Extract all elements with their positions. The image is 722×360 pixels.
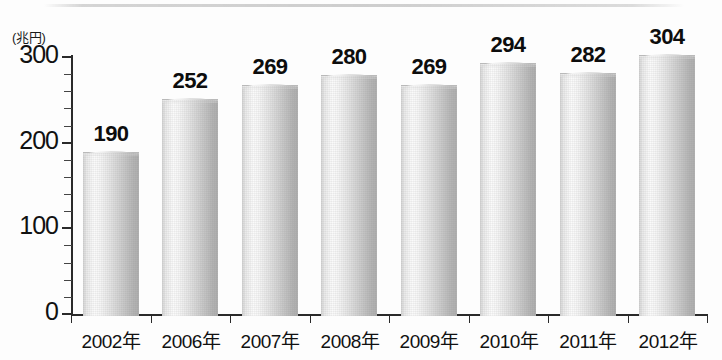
bar-value-label: 294 [480, 32, 536, 58]
x-axis-category-label: 2002年 [71, 326, 151, 353]
bar[interactable] [162, 99, 218, 316]
scan-artifact-line [44, 4, 684, 7]
bar-top-cap [401, 84, 457, 89]
bar-group[interactable]: 252 [162, 42, 218, 316]
bar[interactable] [242, 85, 298, 316]
bar[interactable] [401, 85, 457, 316]
bar-group[interactable]: 304 [639, 42, 695, 316]
bar[interactable] [480, 63, 536, 316]
bar-group[interactable]: 269 [242, 42, 298, 316]
bar-group[interactable]: 282 [560, 42, 616, 316]
bar[interactable] [321, 75, 377, 316]
bar-group[interactable]: 294 [480, 42, 536, 316]
bar-group[interactable]: 280 [321, 42, 377, 316]
plot-area: 190252269280269294282304 [71, 40, 707, 316]
bar-top-cap [560, 72, 616, 77]
x-axis-category-label: 2008年 [310, 326, 390, 353]
x-axis-category-label: 2007年 [230, 326, 310, 353]
bar-group[interactable]: 269 [401, 42, 457, 316]
bar-top-cap [480, 62, 536, 67]
bar-top-cap [321, 74, 377, 79]
bar[interactable] [560, 73, 616, 316]
y-tick-label: 0 [0, 297, 58, 326]
y-tick-label: 100 [0, 211, 58, 240]
y-tick-label: 300 [0, 40, 58, 69]
y-tick-label: 200 [0, 126, 58, 155]
bar-value-label: 252 [162, 68, 218, 94]
bar-top-cap [83, 151, 139, 156]
bar-top-cap [639, 54, 695, 59]
x-axis-category-label: 2006年 [151, 326, 231, 353]
bar-group[interactable]: 190 [83, 42, 139, 316]
bar[interactable] [639, 55, 695, 316]
bar-value-label: 280 [321, 44, 377, 70]
x-axis-category-label: 2012年 [628, 326, 708, 353]
bar-value-label: 304 [639, 24, 695, 50]
x-axis-category-label: 2009年 [389, 326, 469, 353]
bar[interactable] [83, 152, 139, 316]
bar-value-label: 190 [83, 121, 139, 147]
chart-page: (兆円) 0100200300 190252269280269294282304… [0, 0, 722, 360]
x-axis-category-label: 2011年 [548, 326, 628, 353]
bar-top-cap [162, 98, 218, 103]
x-axis-category-label: 2010年 [469, 326, 549, 353]
bar-value-label: 269 [401, 54, 457, 80]
bar-top-cap [242, 84, 298, 89]
x-tick [707, 314, 708, 323]
bar-value-label: 282 [560, 42, 616, 68]
bar-value-label: 269 [242, 54, 298, 80]
